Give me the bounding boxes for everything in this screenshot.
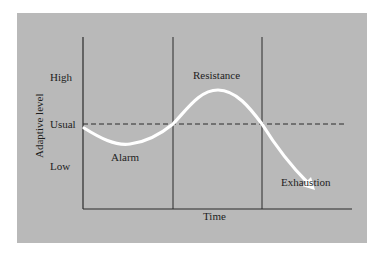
stage-exhaustion-label: Exhaustion — [281, 177, 331, 188]
adaptation-curve — [84, 90, 308, 183]
x-axis-label: Time — [203, 211, 226, 222]
stage-resistance-label: Resistance — [193, 70, 240, 81]
level-usual-label: Usual — [50, 119, 76, 130]
stage-alarm-label: Alarm — [111, 152, 139, 163]
level-low-label: Low — [50, 161, 70, 172]
y-axis-label: Adaptive level — [34, 94, 45, 158]
level-high-label: High — [50, 72, 72, 83]
